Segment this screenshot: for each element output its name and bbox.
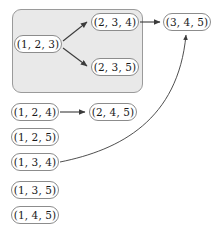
- node-label: (2, 3, 5): [94, 61, 137, 72]
- node-n135[interactable]: (1, 3, 5): [11, 181, 59, 199]
- node-n123[interactable]: (1, 2, 3): [14, 35, 62, 53]
- node-label: (2, 4, 5): [92, 106, 135, 117]
- node-n234[interactable]: (2, 3, 4): [91, 13, 139, 31]
- node-n134[interactable]: (1, 3, 4): [11, 153, 59, 171]
- node-label: (1, 3, 5): [14, 184, 57, 195]
- diagram-canvas: (1, 2, 3)(2, 3, 4)(2, 3, 5)(3, 4, 5)(1, …: [0, 0, 216, 233]
- node-label: (1, 4, 5): [14, 209, 57, 220]
- node-label: (1, 2, 4): [14, 106, 57, 117]
- node-n345[interactable]: (3, 4, 5): [163, 13, 211, 31]
- node-n145[interactable]: (1, 4, 5): [11, 206, 59, 224]
- node-n235[interactable]: (2, 3, 5): [91, 58, 139, 76]
- node-label: (3, 4, 5): [166, 16, 209, 27]
- node-label: (1, 2, 5): [14, 131, 57, 142]
- node-n125[interactable]: (1, 2, 5): [11, 128, 59, 146]
- node-label: (1, 2, 3): [17, 38, 60, 49]
- node-label: (1, 3, 4): [14, 156, 57, 167]
- node-n124[interactable]: (1, 2, 4): [11, 103, 59, 121]
- node-label: (2, 3, 4): [94, 16, 137, 27]
- node-n245[interactable]: (2, 4, 5): [89, 103, 137, 121]
